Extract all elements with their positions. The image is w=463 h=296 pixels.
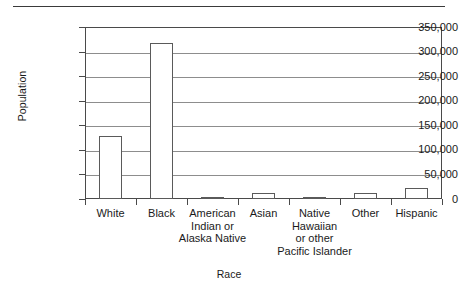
y-axis-tick-label: 50,000	[384, 169, 458, 180]
x-axis-tick-mark	[136, 199, 137, 205]
y-axis-tick-mark	[79, 76, 85, 77]
y-axis-tick-mark	[79, 52, 85, 53]
y-axis-tick-label: 350,000	[384, 22, 458, 33]
x-axis-tick-mark	[187, 199, 188, 205]
y-axis-tick-label: 100,000	[384, 144, 458, 155]
y-axis-tick-label: 300,000	[384, 46, 458, 57]
y-axis-tick-mark	[79, 150, 85, 151]
x-axis-tick-mark	[442, 199, 443, 205]
y-axis-tick-mark	[79, 101, 85, 102]
x-axis-title: Race	[0, 268, 458, 280]
y-axis-tick-label: 200,000	[384, 95, 458, 106]
y-axis-title: Population	[16, 31, 28, 161]
header-rule	[13, 6, 445, 7]
y-axis-tick-mark	[79, 174, 85, 175]
x-axis-tick-mark	[238, 199, 239, 205]
x-axis-tick-mark	[340, 199, 341, 205]
x-axis-category-label: Hispanic	[353, 207, 463, 220]
y-axis-tick-label: 250,000	[384, 71, 458, 82]
x-axis-tick-mark	[289, 199, 290, 205]
x-axis-tick-mark	[391, 199, 392, 205]
x-axis-tick-mark	[85, 199, 86, 205]
y-axis-tick-label: 0	[384, 194, 458, 205]
y-axis-tick-mark	[79, 125, 85, 126]
y-axis-tick-mark	[79, 27, 85, 28]
y-axis-tick-label: 150,000	[384, 120, 458, 131]
